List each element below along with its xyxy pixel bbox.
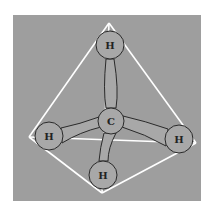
atom-carbon: C	[98, 108, 124, 134]
svg-text:H: H	[105, 40, 114, 51]
bond-c-h1	[105, 59, 118, 108]
atom-h4: H	[89, 161, 117, 189]
atom-h1: H	[96, 31, 124, 59]
svg-text:H: H	[174, 134, 183, 145]
svg-text:H: H	[98, 170, 107, 181]
atom-h2: H	[35, 122, 63, 150]
svg-text:H: H	[44, 131, 53, 142]
svg-text:C: C	[107, 116, 115, 127]
methane-diagram: H H H H C	[0, 0, 217, 215]
atom-h3: H	[165, 125, 193, 153]
